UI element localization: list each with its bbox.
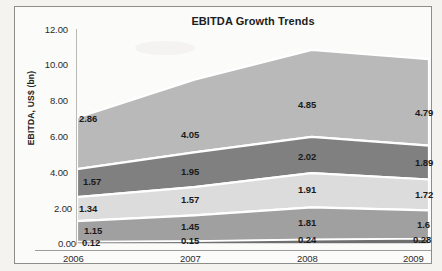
data-label-2006-series-1: 0.12 <box>82 237 100 248</box>
x-axis-tick-labels: 2006 2007 2008 2009 <box>15 251 433 265</box>
data-label-2008-series-1: 0.24 <box>298 234 316 245</box>
y-tick-0: 0.00 <box>58 238 76 249</box>
data-label-2009-series-2: 1.6 <box>417 219 430 230</box>
data-label-2009-series-4: 1.89 <box>415 157 433 168</box>
data-label-2009-series-3: 1.72 <box>415 189 433 200</box>
data-label-2009-series-1: 0.28 <box>413 234 431 245</box>
data-label-2006-series-4: 1.57 <box>83 176 101 187</box>
figure-canvas: EBITDA Growth Trends EBITDA, US$ (bn) 12… <box>0 0 442 271</box>
plot-area: 2.86 1.57 1.34 1.15 0.12 4.05 1.95 1.57 … <box>77 29 429 244</box>
x-tick-2009: 2009 <box>403 253 424 264</box>
data-label-2006-series-5: 2.86 <box>79 113 97 124</box>
data-label-2006-series-2: 1.15 <box>84 225 102 236</box>
data-label-2007-series-3: 1.57 <box>181 194 199 205</box>
data-label-2007-series-2: 1.45 <box>181 221 199 232</box>
data-label-2007-series-4: 1.95 <box>181 166 199 177</box>
y-tick-2: 2.00 <box>54 203 72 214</box>
x-tick-2006: 2006 <box>63 253 84 264</box>
chart-title: EBITDA Growth Trends <box>77 15 429 27</box>
x-tick-2007: 2007 <box>180 253 201 264</box>
data-label-2009-series-5: 4.79 <box>415 107 433 118</box>
data-label-2007-series-1: 0.15 <box>181 235 199 246</box>
chart-paper: EBITDA Growth Trends EBITDA, US$ (bn) 12… <box>14 6 432 264</box>
stacked-area-series-group <box>77 29 429 244</box>
y-tick-4: 4.00 <box>50 167 68 178</box>
y-tick-6: 6.00 <box>50 131 68 142</box>
x-tick-2008: 2008 <box>297 253 318 264</box>
data-label-2006-series-3: 1.34 <box>79 203 97 214</box>
data-label-2008-series-4: 2.02 <box>298 151 316 162</box>
y-tick-8: 8.00 <box>50 95 68 106</box>
y-tick-10: 10.00 <box>45 59 68 70</box>
data-label-2008-series-3: 1.91 <box>298 184 316 195</box>
data-label-2008-series-5: 4.85 <box>298 99 316 110</box>
y-tick-12: 12.00 <box>45 24 68 35</box>
data-label-2007-series-5: 4.05 <box>181 129 199 140</box>
data-label-2008-series-2: 1.81 <box>298 217 316 228</box>
y-axis-tick-labels: 12.00 10.00 8.00 6.00 4.00 2.00 0.00 <box>15 7 77 265</box>
